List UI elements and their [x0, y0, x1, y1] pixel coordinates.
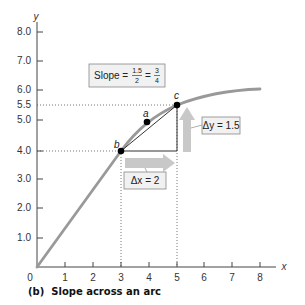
y-tick-label: 3.0: [17, 173, 31, 184]
x-tick-label: 3: [118, 272, 124, 283]
x-tick-label: 0: [27, 272, 33, 283]
chord-bc: [121, 105, 177, 151]
y-tick-label: 1.0: [17, 232, 31, 243]
x-ticks: [65, 262, 260, 267]
x-tick-label: 1: [62, 272, 68, 283]
point-c-label: c: [174, 90, 179, 101]
x-tick-label: 4: [146, 272, 152, 283]
slope-numerator-2: 3: [155, 67, 159, 74]
y-tick-label: 5.0: [17, 114, 31, 125]
y-tick-label: 2.0: [17, 202, 31, 213]
x-tick-label: 7: [229, 272, 235, 283]
delta-x-arrow-icon: [125, 154, 175, 172]
y-tick-label: 6.0: [17, 84, 31, 95]
point-a-label: a: [143, 108, 149, 119]
y-tick-label: 5.5: [17, 99, 31, 110]
delta-x-label: Δx = 2: [131, 175, 160, 186]
x-tick-label: 2: [90, 272, 96, 283]
y-ticks: [37, 32, 43, 238]
x-tick-label: 5: [174, 272, 180, 283]
slope-equals: =: [145, 70, 151, 81]
slope-denominator: 2: [135, 77, 139, 84]
y-tick-label: 7.0: [17, 55, 31, 66]
delta-y-arrow-icon: [179, 107, 195, 152]
delta-y-connector: [191, 125, 202, 128]
point-b-label: b: [114, 139, 120, 150]
point-c: [174, 102, 181, 109]
x-axis-label: x: [281, 261, 288, 272]
delta-y-label: Δy = 1.5: [203, 120, 240, 131]
figure-caption: (b) Slope across an arc: [28, 286, 161, 297]
slope-label: Slope =: [94, 70, 128, 81]
x-tick-label: 8: [257, 272, 263, 283]
chart-svg: 1.0 2.0 3.0 4.0 5.0 5.5 6.0 7.0 8.0 0 1 …: [0, 0, 305, 305]
y-tick-label: 8.0: [17, 26, 31, 37]
slope-denominator-2: 4: [155, 77, 159, 84]
y-axis-label: y: [33, 11, 40, 22]
delta-x-connector: [145, 168, 147, 172]
point-a: [144, 119, 151, 126]
chart-figure: 1.0 2.0 3.0 4.0 5.0 5.5 6.0 7.0 8.0 0 1 …: [0, 0, 305, 305]
slope-numerator: 1.5: [132, 67, 142, 74]
y-tick-label: 4.0: [17, 145, 31, 156]
x-tick-label: 6: [201, 272, 207, 283]
